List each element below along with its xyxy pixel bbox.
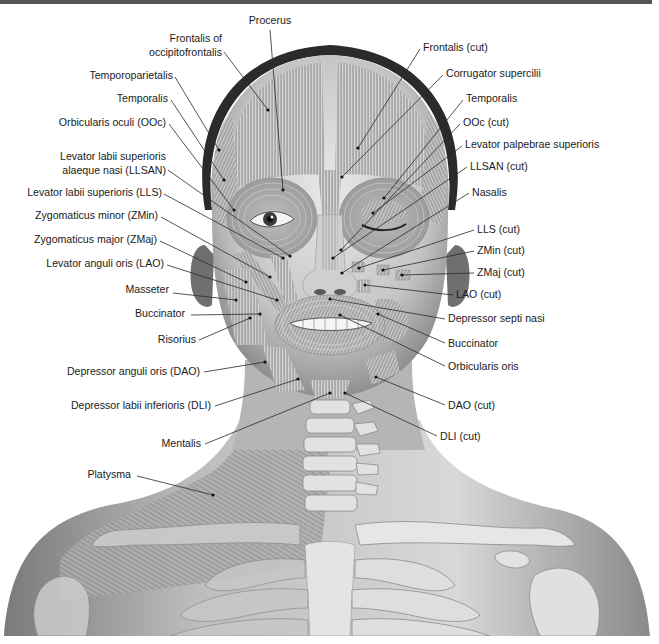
- pointer-dot: [343, 391, 346, 394]
- illustration: ProcerusFrontalis ofoccipitofrontalisTem…: [0, 0, 659, 644]
- pointer-dot: [248, 316, 251, 319]
- label-text: Depressor septi nasi: [448, 312, 545, 324]
- pointer-dot: [340, 175, 343, 178]
- pointer-dot: [232, 208, 235, 211]
- label-text: Procerus: [249, 14, 291, 26]
- label-text: Temporalis: [466, 92, 517, 104]
- label-text: Frontalis of: [170, 32, 222, 44]
- label-text: DLI (cut): [440, 430, 481, 442]
- pointer-dot: [275, 298, 278, 301]
- pointer-dot: [363, 283, 366, 286]
- pointer-dot: [211, 493, 214, 496]
- pointer-dot: [376, 312, 379, 315]
- mentalis: [310, 380, 350, 398]
- label-text: Buccinator: [448, 337, 499, 349]
- label-text: Temporoparietalis: [89, 69, 173, 81]
- pointer-dot: [244, 280, 247, 283]
- label-text: Depressor labii inferioris (DLI): [71, 399, 211, 411]
- label-text: Orbicularis oris: [448, 360, 519, 372]
- pointer-dot: [281, 188, 284, 191]
- label-text: Levator labii superioris: [60, 150, 166, 162]
- label-text: Zygomaticus major (ZMaj): [34, 233, 157, 245]
- procerus: [318, 170, 342, 215]
- label-text: ZMaj (cut): [477, 266, 525, 278]
- label-text: Frontalis (cut): [423, 41, 488, 53]
- label-text: DAO (cut): [448, 399, 495, 411]
- pointer-dot: [331, 256, 334, 259]
- pointer-dot: [268, 275, 271, 278]
- pointer-dot: [217, 148, 220, 151]
- label-text: Corrugator supercilii: [446, 67, 541, 79]
- pointer-dot: [340, 271, 343, 274]
- pointer-dot: [400, 273, 403, 276]
- label-text: Zygomaticus minor (ZMin): [35, 209, 158, 221]
- label-text: Orbicularis oculi (OOc): [59, 116, 166, 128]
- label-left-depressor-anguli-oris-dao: Depressor anguli oris (DAO): [67, 360, 267, 377]
- label-text: OOc (cut): [463, 116, 509, 128]
- pointer-dot: [356, 146, 359, 149]
- pointer-dot: [338, 313, 341, 316]
- label-text: Platysma: [87, 468, 131, 480]
- pointer-dot: [222, 178, 225, 181]
- pointer-dot: [281, 256, 284, 259]
- label-text: Temporalis: [117, 92, 168, 104]
- label-text: alaeque nasi (LLSAN): [62, 164, 166, 176]
- pointer-dot: [357, 266, 360, 269]
- nasal-bridge-stripes: [322, 215, 338, 270]
- anatomy-figure: ProcerusFrontalis ofoccipitofrontalisTem…: [0, 0, 659, 644]
- label-text: LLSAN (cut): [470, 160, 528, 172]
- pointer-dot: [371, 211, 374, 214]
- label-text: LAO (cut): [456, 288, 501, 300]
- pointer-dot: [266, 108, 269, 111]
- label-text: Mentalis: [162, 437, 201, 449]
- label-text: Depressor anguli oris (DAO): [67, 365, 200, 377]
- label-text: Risorius: [158, 333, 196, 345]
- pointer-dot: [328, 297, 331, 300]
- pointer-dot: [328, 391, 331, 394]
- label-left-temporoparietalis: Temporoparietalis: [89, 69, 220, 152]
- sternum: [305, 541, 355, 636]
- pointer-dot: [258, 312, 261, 315]
- label-text: LLS (cut): [477, 223, 520, 235]
- label-text: Masseter: [125, 283, 169, 295]
- label-text: Nasalis: [472, 186, 507, 198]
- pointer-dot: [382, 196, 385, 199]
- label-text: Levator labii superioris (LLS): [27, 186, 162, 198]
- pointer-dot: [288, 254, 291, 257]
- label-text: ZMin (cut): [477, 244, 525, 256]
- pointer-dot: [381, 268, 384, 271]
- pointer-dot: [263, 360, 266, 363]
- pointer-dot: [296, 377, 299, 380]
- pointer-dot: [339, 248, 342, 251]
- label-text: Levator anguli oris (LAO): [46, 257, 164, 269]
- pointer-dot: [374, 375, 377, 378]
- pointer-dot: [234, 298, 237, 301]
- label-text: Levator palpebrae superioris: [465, 138, 599, 150]
- label-text: occipitofrontalis: [149, 46, 222, 58]
- label-text: Buccinator: [135, 307, 186, 319]
